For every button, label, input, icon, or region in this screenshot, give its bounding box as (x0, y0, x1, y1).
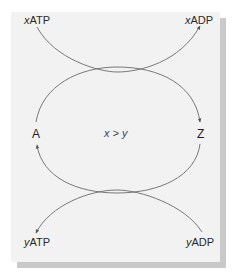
edge-z-to-a-lower-arc (37, 144, 200, 193)
label-y-adp: yADP (186, 237, 214, 248)
label-y-atp: yATP (24, 237, 50, 248)
label-condition: x > y (104, 128, 128, 139)
label-z: Z (197, 128, 204, 140)
edge-xatp-to-xadp (37, 26, 200, 72)
edge-yadp-to-yatp (36, 190, 202, 233)
label-x-adp: xADP (185, 15, 213, 26)
label-x-atp: xATP (24, 15, 50, 26)
label-a: A (32, 128, 40, 140)
edge-a-to-z-upper-arc (36, 67, 200, 122)
